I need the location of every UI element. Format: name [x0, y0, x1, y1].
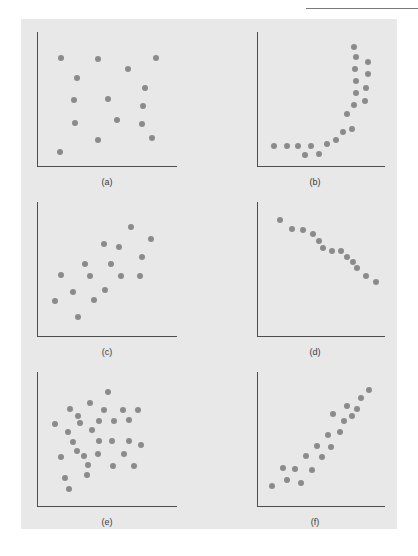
x-axis — [257, 506, 385, 507]
data-point — [325, 432, 331, 438]
data-point — [324, 141, 330, 147]
data-point — [118, 273, 124, 279]
data-point — [308, 143, 314, 149]
data-point — [295, 143, 301, 149]
panel-label-c: (c) — [21, 347, 193, 358]
data-point — [314, 443, 320, 449]
data-point — [316, 238, 322, 244]
data-point — [351, 44, 357, 50]
data-point — [300, 227, 306, 233]
data-point — [85, 462, 91, 468]
data-point — [319, 454, 325, 460]
data-point — [81, 453, 87, 459]
data-point — [340, 129, 346, 135]
data-point — [138, 442, 144, 448]
data-point — [354, 406, 360, 412]
data-point — [337, 429, 343, 435]
plot-area — [37, 202, 177, 336]
data-point — [87, 400, 93, 406]
data-point — [67, 406, 73, 412]
data-point — [354, 265, 360, 271]
plot-area — [257, 32, 385, 166]
x-axis — [257, 336, 385, 337]
data-point — [303, 453, 309, 459]
scatter-panel-d — [257, 202, 385, 336]
data-point — [70, 439, 76, 445]
data-point — [140, 103, 146, 109]
data-point — [95, 56, 101, 62]
data-point — [84, 472, 90, 478]
data-point — [353, 90, 359, 96]
data-point — [363, 85, 369, 91]
panel-label-a: (a) — [21, 177, 193, 188]
data-point — [363, 273, 369, 279]
x-axis — [37, 166, 177, 167]
data-point — [110, 463, 116, 469]
data-point — [341, 418, 347, 424]
figure-plate: (a)(b)(c)(d)(e)(f) — [21, 19, 397, 529]
header-rule — [306, 8, 418, 9]
data-point — [75, 413, 81, 419]
plot-area — [257, 372, 385, 506]
data-point — [333, 137, 339, 143]
data-point — [349, 126, 355, 132]
data-point — [87, 273, 93, 279]
data-point — [289, 226, 295, 232]
data-point — [137, 273, 143, 279]
data-point — [284, 143, 290, 149]
data-point — [101, 241, 107, 247]
data-point — [75, 314, 81, 320]
panel-label-e: (e) — [21, 517, 193, 528]
data-point — [344, 403, 350, 409]
data-point — [366, 387, 372, 393]
data-point — [153, 55, 159, 61]
data-point — [109, 438, 115, 444]
x-axis — [257, 166, 385, 167]
data-point — [352, 66, 358, 72]
data-point — [95, 451, 101, 457]
data-point — [358, 395, 364, 401]
data-point — [101, 407, 107, 413]
data-point — [302, 152, 308, 158]
x-axis — [37, 506, 177, 507]
data-point — [284, 477, 290, 483]
data-point — [74, 448, 80, 454]
data-point — [349, 413, 355, 419]
data-point — [328, 444, 334, 450]
data-point — [96, 438, 102, 444]
data-point — [353, 78, 359, 84]
data-point — [298, 480, 304, 486]
data-point — [52, 298, 58, 304]
data-point — [271, 143, 277, 149]
data-point — [362, 98, 368, 104]
data-point — [71, 97, 77, 103]
data-point — [142, 85, 148, 91]
data-point — [350, 259, 356, 265]
data-point — [329, 248, 335, 254]
scatter-panel-e — [37, 372, 177, 506]
data-point — [126, 417, 132, 423]
data-point — [365, 71, 371, 77]
panel-label-f: (f) — [233, 517, 397, 528]
plot-area — [37, 372, 177, 506]
data-point — [125, 66, 131, 72]
panel-label-d: (d) — [233, 347, 397, 358]
data-point — [95, 137, 101, 143]
data-point — [310, 231, 316, 237]
data-point — [330, 411, 336, 417]
scatter-panel-f — [257, 372, 385, 506]
data-point — [344, 254, 350, 260]
data-point — [365, 59, 371, 65]
data-point — [344, 111, 350, 117]
data-point — [338, 248, 344, 254]
data-point — [128, 224, 134, 230]
data-point — [58, 55, 64, 61]
panel-label-b: (b) — [233, 177, 397, 188]
data-point — [70, 289, 76, 295]
data-point — [66, 486, 72, 492]
scatter-panel-a — [37, 32, 177, 166]
data-point — [148, 236, 154, 242]
data-point — [277, 217, 283, 223]
data-point — [139, 254, 145, 260]
x-axis — [37, 336, 177, 337]
